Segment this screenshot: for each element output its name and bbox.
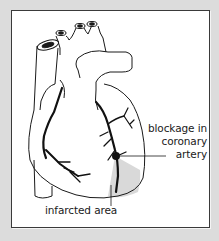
blockage-label-line-3: artery [127, 148, 207, 161]
blockage-label: blockage in coronary artery [127, 122, 207, 161]
vena-cava [34, 38, 60, 110]
infarct-label: infarcted area [45, 204, 117, 217]
blockage-label-line-2: coronary [127, 135, 207, 148]
blockage-label-line-1: blockage in [127, 122, 207, 135]
aortic-branches [56, 22, 106, 56]
infarcted-area-shade [108, 156, 140, 197]
blockage-marker [112, 152, 120, 160]
